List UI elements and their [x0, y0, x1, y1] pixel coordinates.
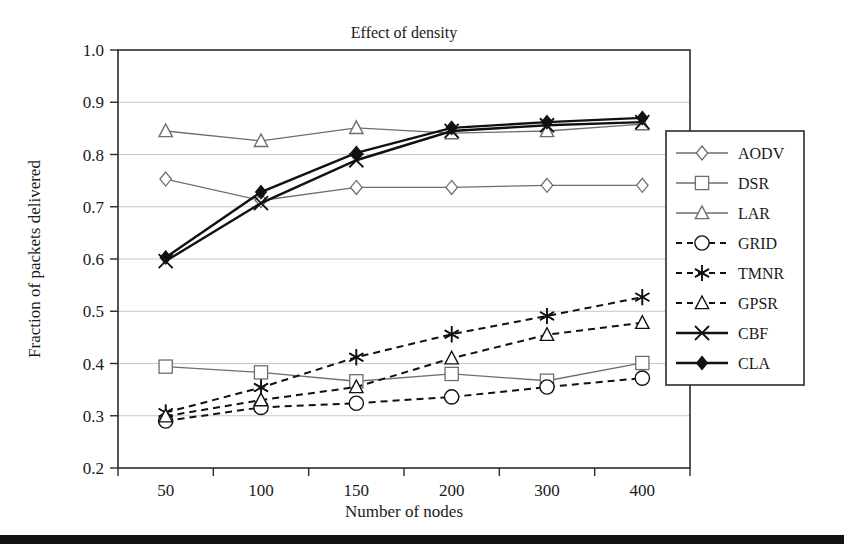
data-point-aodv-150 — [351, 180, 362, 194]
legend-label-cbf: CBF — [738, 325, 768, 342]
legend-swatch-marker-dsr — [695, 176, 708, 189]
y-tick-label: 0.7 — [83, 198, 105, 217]
x-tick-label: 400 — [630, 481, 656, 500]
data-point-grid-300 — [540, 380, 554, 394]
series-line-grid — [166, 378, 643, 421]
data-point-grid-150 — [349, 396, 363, 410]
legend-box — [666, 131, 804, 385]
data-point-gpsr-400 — [636, 316, 649, 329]
y-axis-tick-labels: 0.20.30.40.50.60.70.80.91.0 — [83, 41, 105, 478]
data-point-aodv-50 — [160, 172, 171, 186]
data-point-cla-50 — [160, 251, 171, 264]
data-point-grid-200 — [445, 390, 459, 404]
x-axis-tick-labels: 50100150200300400 — [157, 481, 655, 500]
legend-label-tmnr: TMNR — [738, 265, 785, 282]
series-line-lar — [166, 124, 643, 141]
legend-label-cla: CLA — [738, 355, 770, 372]
x-tick-label: 50 — [157, 481, 174, 500]
data-point-lar-150 — [350, 121, 363, 134]
data-point-tmnr-150 — [349, 349, 363, 365]
data-point-dsr-50 — [159, 360, 172, 373]
series-line-cbf — [166, 122, 643, 261]
x-tick-label: 200 — [439, 481, 465, 500]
legend-label-grid: GRID — [738, 235, 777, 252]
y-tick-label: 0.6 — [83, 250, 104, 269]
y-tick-label: 0.8 — [83, 146, 104, 165]
series-line-aodv — [166, 179, 643, 200]
y-tick-label: 0.5 — [83, 302, 104, 321]
y-tick-label: 0.3 — [83, 407, 104, 426]
x-axis-label: Number of nodes — [345, 502, 463, 521]
data-point-cla-100 — [256, 186, 267, 199]
x-tick-label: 100 — [248, 481, 274, 500]
legend-label-gpsr: GPSR — [738, 295, 778, 312]
y-tick-label: 1.0 — [83, 41, 104, 60]
data-point-gpsr-200 — [445, 351, 458, 364]
series-aodv — [160, 172, 648, 207]
chart-legend: AODVDSRLARGRIDTMNRGPSRCBFCLA — [666, 131, 804, 385]
series-grid — [159, 371, 650, 428]
data-point-gpsr-300 — [540, 328, 553, 341]
legend-label-dsr: DSR — [738, 175, 769, 192]
x-axis-ticks — [118, 468, 690, 476]
page-footer-rule — [0, 535, 844, 544]
data-point-lar-50 — [159, 124, 172, 137]
legend-label-lar: LAR — [738, 205, 770, 222]
data-point-dsr-200 — [445, 367, 458, 380]
x-tick-label: 150 — [344, 481, 370, 500]
y-axis-label: Fraction of packets delivered — [25, 160, 44, 358]
legend-label-aodv: AODV — [738, 145, 785, 162]
chart-title: Effect of density — [351, 24, 457, 42]
y-tick-label: 0.9 — [83, 93, 104, 112]
data-point-aodv-200 — [446, 180, 457, 194]
legend-swatch-marker-grid — [695, 236, 709, 250]
chart-canvas: 0.20.30.40.50.60.70.80.91.0 501001502003… — [0, 0, 844, 553]
series-tmnr — [159, 289, 650, 421]
y-axis-ticks — [110, 50, 118, 468]
data-point-dsr-100 — [254, 366, 267, 379]
data-point-aodv-400 — [637, 178, 648, 192]
series-line-tmnr — [166, 297, 643, 412]
figure-container: 0.20.30.40.50.60.70.80.91.0 501001502003… — [0, 0, 844, 553]
series-gpsr — [159, 316, 649, 422]
y-tick-label: 0.2 — [83, 459, 104, 478]
y-tick-label: 0.4 — [83, 355, 105, 374]
data-point-grid-400 — [635, 371, 649, 385]
data-point-dsr-400 — [636, 356, 649, 369]
series-line-gpsr — [166, 323, 643, 417]
x-tick-label: 300 — [534, 481, 560, 500]
data-point-aodv-300 — [541, 178, 552, 192]
data-series-layer — [159, 111, 650, 428]
